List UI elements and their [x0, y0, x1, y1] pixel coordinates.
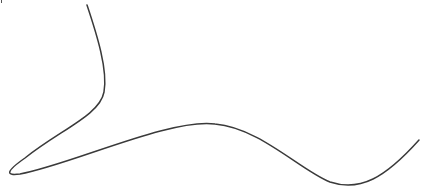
- curve-canvas: [0, 0, 425, 194]
- freeform-curve: [10, 5, 419, 185]
